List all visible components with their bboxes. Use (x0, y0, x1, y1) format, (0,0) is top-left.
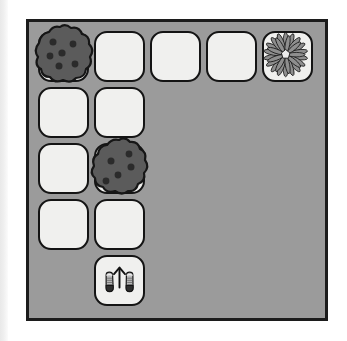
tile-r4-c1[interactable] (94, 255, 145, 306)
tile-r3-c0[interactable] (38, 199, 89, 250)
tile-r2-c0[interactable] (38, 143, 89, 194)
tile-r3-c1[interactable] (94, 199, 145, 250)
tile-r1-c0[interactable] (38, 87, 89, 138)
tile-r2-c1[interactable] (94, 143, 145, 194)
tile-r0-c4[interactable] (262, 31, 313, 82)
tile-r0-c0[interactable] (38, 31, 89, 82)
tile-r0-c3[interactable] (206, 31, 257, 82)
up-arrow-icon (114, 268, 125, 288)
tile-r1-c1[interactable] (94, 87, 145, 138)
page-edge-artifact (0, 0, 8, 341)
start-marker-icon (96, 257, 143, 304)
tile-r0-c1[interactable] (94, 31, 145, 82)
flower-goal-icon (264, 33, 311, 80)
tile-r0-c2[interactable] (150, 31, 201, 82)
right-sneaker-icon (126, 272, 133, 291)
left-sneaker-icon (106, 272, 113, 291)
puzzle-board (26, 19, 328, 321)
